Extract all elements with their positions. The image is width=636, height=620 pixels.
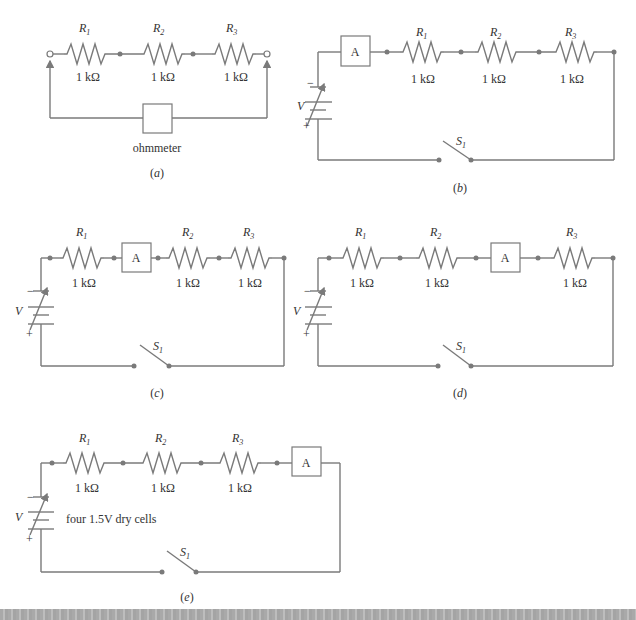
r2-value: 1 kΩ bbox=[151, 70, 175, 84]
ammeter-label: A bbox=[351, 45, 360, 59]
r1-value: 1 kΩ bbox=[75, 481, 99, 495]
r1-value: 1 kΩ bbox=[76, 70, 100, 84]
r3-label: R3 bbox=[225, 21, 237, 37]
panel-c: A − + V S1 R1 R2 R3 1 kΩ 1 kΩ 1 kΩ bbox=[15, 225, 287, 400]
voltage-label: V bbox=[297, 99, 306, 113]
r2-label: R2 bbox=[154, 431, 166, 447]
minus-sign: − bbox=[307, 76, 314, 90]
switch-label: S1 bbox=[180, 545, 190, 561]
voltage-label: V bbox=[293, 304, 302, 318]
caption-e: (e) bbox=[180, 590, 193, 604]
resistor-r1 bbox=[63, 453, 107, 473]
r1-label: R1 bbox=[78, 431, 90, 447]
ohmmeter-box bbox=[143, 104, 172, 133]
minus-sign: − bbox=[27, 490, 34, 504]
r2-value: 1 kΩ bbox=[425, 276, 449, 290]
r3-label: R3 bbox=[564, 25, 576, 41]
r1-label: R1 bbox=[78, 21, 90, 37]
switch-label: S1 bbox=[456, 134, 466, 150]
r2-label: R2 bbox=[181, 225, 193, 241]
r3-value: 1 kΩ bbox=[228, 481, 252, 495]
voltage-label: V bbox=[15, 510, 24, 524]
terminal-right bbox=[264, 51, 270, 57]
switch-label: S1 bbox=[456, 339, 466, 355]
plus-sign: + bbox=[303, 327, 310, 341]
caption-b: (b) bbox=[453, 181, 467, 195]
ammeter-label: A bbox=[501, 251, 510, 265]
panel-a: ohmmeter R1 R2 R3 1 kΩ 1 kΩ 1 kΩ (a) bbox=[47, 21, 270, 180]
resistor-r3 bbox=[551, 248, 595, 268]
plus-sign: + bbox=[303, 119, 310, 133]
minus-sign: − bbox=[27, 284, 34, 298]
resistor-r3 bbox=[217, 453, 261, 473]
resistor-r1 bbox=[340, 248, 384, 268]
resistor-r1 bbox=[400, 42, 444, 62]
ohmmeter-label: ohmmeter bbox=[133, 141, 182, 155]
r2-label: R2 bbox=[429, 225, 441, 241]
resistor-r1 bbox=[60, 248, 104, 268]
caption-c: (c) bbox=[150, 386, 163, 400]
r2-value: 1 kΩ bbox=[482, 72, 506, 86]
resistor-r2 bbox=[475, 42, 519, 62]
plus-sign: + bbox=[26, 327, 33, 341]
r2-label: R2 bbox=[152, 21, 164, 37]
r3-value: 1 kΩ bbox=[563, 276, 587, 290]
resistor-r2 bbox=[141, 44, 185, 64]
r2-value: 1 kΩ bbox=[176, 276, 200, 290]
switch-label: S1 bbox=[153, 339, 163, 355]
r1-label: R1 bbox=[354, 225, 366, 241]
panel-d: A − + V S1 R1 R2 R3 1 kΩ 1 kΩ 1 kΩ (d) bbox=[293, 225, 616, 400]
voltage-label: V bbox=[15, 304, 24, 318]
r1-label: R1 bbox=[75, 225, 87, 241]
resistor-r1 bbox=[64, 44, 108, 64]
resistor-r3 bbox=[228, 248, 272, 268]
caption-a: (a) bbox=[150, 166, 164, 180]
r3-value: 1 kΩ bbox=[224, 70, 248, 84]
terminal-left bbox=[47, 51, 53, 57]
r3-label: R3 bbox=[242, 225, 254, 241]
resistor-r3 bbox=[553, 42, 597, 62]
r3-value: 1 kΩ bbox=[560, 72, 584, 86]
battery-note: four 1.5V dry cells bbox=[66, 512, 157, 526]
r3-value: 1 kΩ bbox=[238, 276, 262, 290]
resistor-r3 bbox=[212, 44, 256, 64]
resistor-r2 bbox=[416, 248, 460, 268]
r1-value: 1 kΩ bbox=[411, 72, 435, 86]
r1-value: 1 kΩ bbox=[72, 276, 96, 290]
r1-value: 1 kΩ bbox=[350, 276, 374, 290]
ammeter-label: A bbox=[132, 251, 141, 265]
r2-value: 1 kΩ bbox=[151, 481, 175, 495]
r3-label: R3 bbox=[565, 225, 577, 241]
ammeter-label: A bbox=[302, 456, 311, 470]
page-edge-band bbox=[0, 609, 636, 620]
circuit-figure: ohmmeter R1 R2 R3 1 kΩ 1 kΩ 1 kΩ (a) A bbox=[0, 0, 636, 620]
caption-d: (d) bbox=[453, 386, 467, 400]
resistor-r2 bbox=[166, 248, 210, 268]
minus-sign: − bbox=[304, 284, 311, 298]
r3-label: R3 bbox=[231, 431, 243, 447]
panel-b: A − + V S1 R1 R2 R3 1 bbox=[297, 25, 617, 195]
r1-label: R1 bbox=[415, 25, 427, 41]
resistor-r2 bbox=[140, 453, 184, 473]
r2-label: R2 bbox=[489, 25, 501, 41]
panel-e: A − + V four 1.5V dry cells S1 R1 R2 R3 … bbox=[15, 431, 340, 604]
plus-sign: + bbox=[26, 532, 33, 546]
